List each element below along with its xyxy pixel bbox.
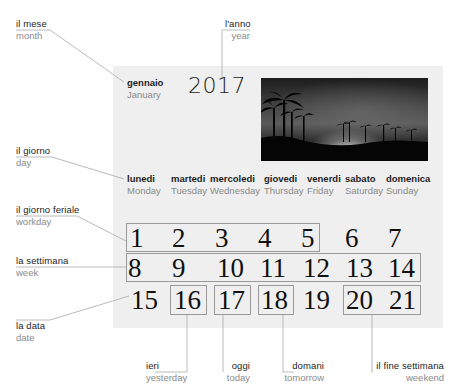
date-20: 20 bbox=[346, 287, 373, 313]
label-month: il mese month bbox=[16, 18, 47, 42]
date-3: 3 bbox=[215, 225, 229, 251]
date-8: 8 bbox=[128, 255, 142, 281]
date-13: 13 bbox=[346, 255, 373, 281]
weekday-wednesday: mercoledi Wednesday bbox=[210, 173, 260, 197]
label-weekend: il fine settimana weekend bbox=[350, 360, 444, 384]
weekday-sunday: domenica Sunday bbox=[386, 173, 430, 197]
label-date: la data date bbox=[16, 320, 45, 344]
date-11: 11 bbox=[260, 255, 286, 281]
date-5: 5 bbox=[301, 225, 315, 251]
weekday-saturday: sabato Saturday bbox=[345, 173, 383, 197]
date-17: 17 bbox=[218, 287, 245, 313]
date-16: 16 bbox=[174, 287, 201, 313]
date-19: 19 bbox=[303, 287, 330, 313]
weekday-tuesday: martedi Tuesday bbox=[171, 173, 207, 197]
date-9: 9 bbox=[172, 255, 186, 281]
date-4: 4 bbox=[258, 225, 272, 251]
calendar-month: gennaio January bbox=[127, 77, 163, 101]
date-21: 21 bbox=[389, 287, 416, 313]
date-6: 6 bbox=[345, 225, 359, 251]
label-workday: il giorno feriale workday bbox=[16, 204, 79, 228]
date-14: 14 bbox=[388, 255, 415, 281]
date-1: 1 bbox=[130, 225, 144, 251]
label-yesterday: ieri yesterday bbox=[146, 360, 187, 384]
date-15: 15 bbox=[131, 287, 158, 313]
label-day: il giorno day bbox=[16, 145, 50, 169]
label-week: la settimana week bbox=[16, 255, 68, 279]
weekday-thursday: giovedi Thursday bbox=[264, 173, 304, 197]
date-7: 7 bbox=[388, 225, 402, 251]
weekday-monday: lunedi Monday bbox=[127, 173, 161, 197]
date-12: 12 bbox=[303, 255, 330, 281]
weekday-friday: venerdi Friday bbox=[307, 173, 341, 197]
date-10: 10 bbox=[217, 255, 244, 281]
calendar-year: 2017 bbox=[188, 73, 246, 98]
date-18: 18 bbox=[261, 287, 288, 313]
date-2: 2 bbox=[172, 225, 186, 251]
label-tomorrow: domani tomorrow bbox=[240, 360, 324, 384]
label-year: l'anno year bbox=[225, 18, 250, 42]
